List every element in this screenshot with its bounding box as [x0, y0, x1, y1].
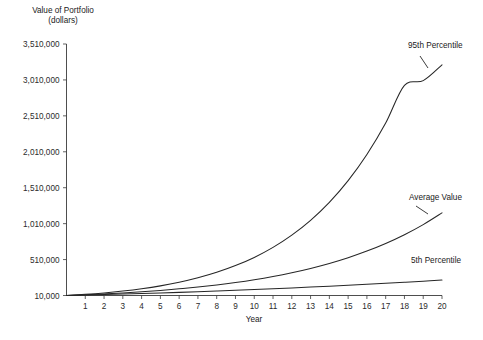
series-annotations: 95th PercentileAverage Value5th Percenti…: [408, 41, 463, 265]
x-tick-label: 6: [177, 302, 182, 311]
series-line-95th-percentile: [67, 65, 443, 296]
y-tick-label: 3,010,000: [23, 76, 60, 85]
y-tick-label: 10,000: [34, 292, 59, 301]
x-tick-label: 9: [233, 302, 238, 311]
y-tick-label: 510,000: [30, 256, 60, 265]
x-tick-label: 1: [83, 302, 88, 311]
x-tick-label: 5: [158, 302, 163, 311]
y-tick-label: 2,010,000: [23, 148, 60, 157]
x-tick-label: 4: [139, 302, 144, 311]
series-label-average-value: Average Value: [409, 193, 462, 202]
x-tick-label: 10: [250, 302, 260, 311]
x-tick-label: 17: [381, 302, 391, 311]
x-tick-label: 3: [121, 302, 126, 311]
y-tick-label: 1,010,000: [23, 220, 60, 229]
x-tick-label: 11: [269, 302, 278, 311]
x-axis-title: Year: [246, 315, 263, 324]
x-tick-label: 16: [362, 302, 372, 311]
y-axis-title-line2: (dollars): [48, 16, 78, 25]
x-tick-label: 19: [419, 302, 429, 311]
x-tick-label: 14: [325, 302, 335, 311]
x-tick-label: 18: [400, 302, 410, 311]
y-tick-label: 3,510,000: [23, 40, 60, 49]
leader-line-95th: [420, 56, 428, 68]
x-axis-ticks: 1234567891011121314151617181920: [83, 296, 447, 312]
y-axis-title-line1: Value of Portfolio: [32, 6, 94, 15]
x-tick-label: 8: [214, 302, 219, 311]
y-axis-ticks: 10,000510,0001,010,0001,510,0002,010,000…: [23, 40, 66, 301]
series-curves: [67, 65, 443, 296]
series-label-5th-percentile: 5th Percentile: [411, 256, 462, 265]
x-tick-label: 13: [306, 302, 316, 311]
x-tick-label: 7: [196, 302, 201, 311]
x-tick-label: 12: [287, 302, 297, 311]
x-tick-label: 2: [102, 302, 107, 311]
x-tick-label: 15: [344, 302, 354, 311]
chart-page: Value of Portfolio (dollars) 10,000510,0…: [0, 0, 483, 340]
y-tick-label: 2,510,000: [23, 112, 60, 121]
series-label-95th-percentile: 95th Percentile: [408, 41, 463, 50]
portfolio-projection-chart: Value of Portfolio (dollars) 10,000510,0…: [0, 0, 483, 340]
x-tick-label: 20: [437, 302, 447, 311]
y-tick-label: 1,510,000: [23, 184, 60, 193]
leader-line-average: [416, 206, 428, 214]
